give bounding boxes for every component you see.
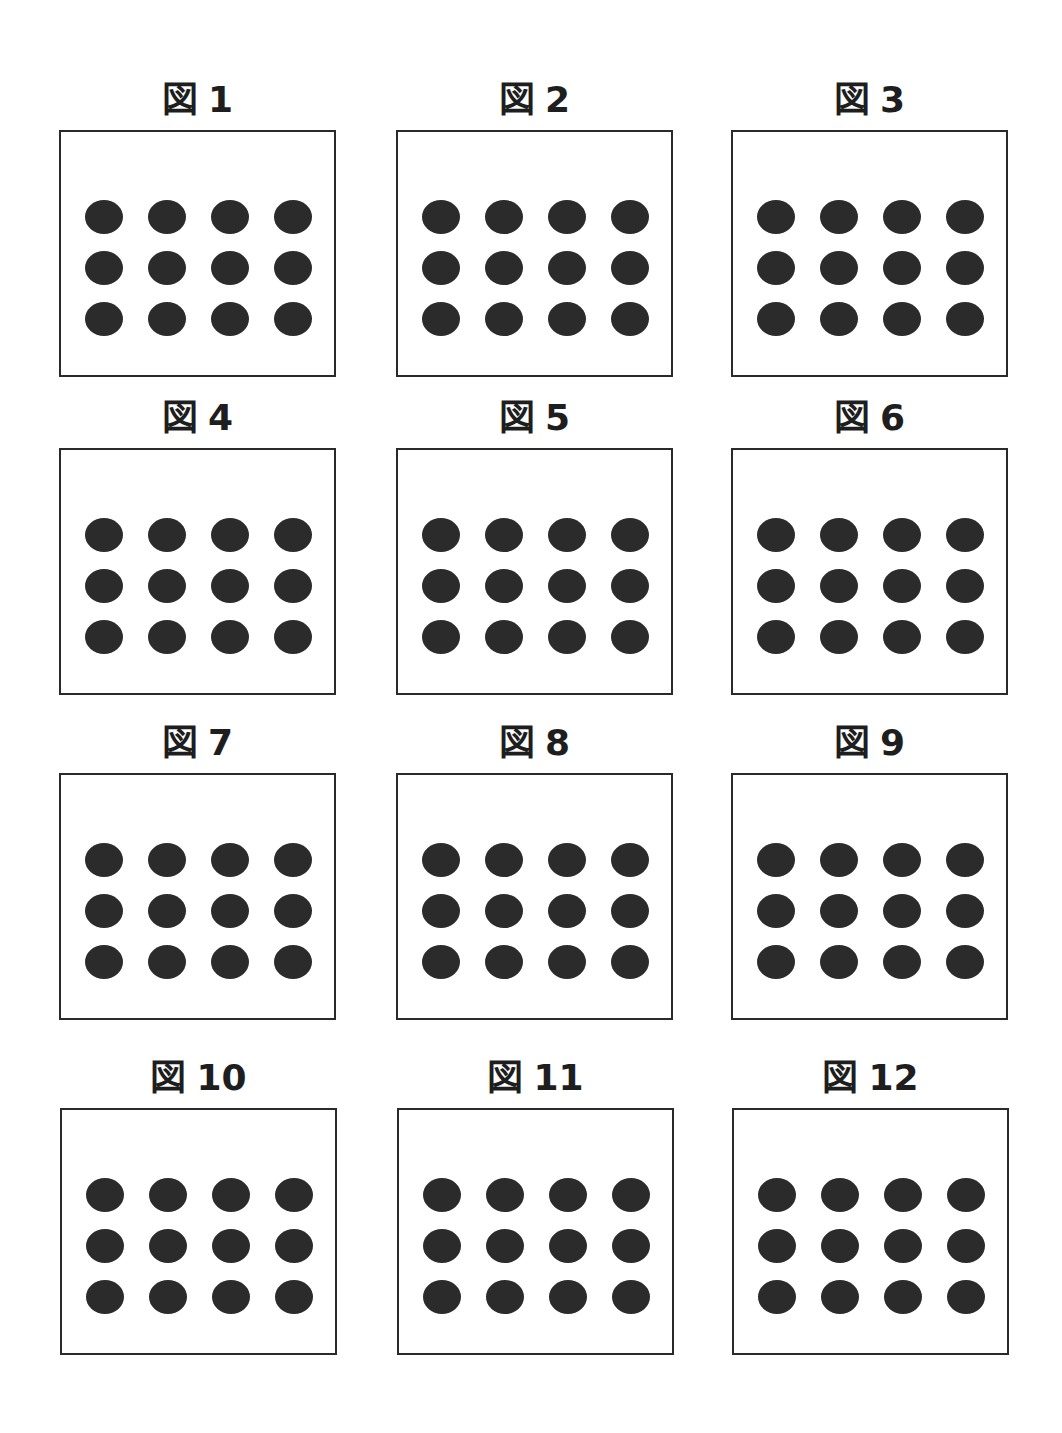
dot: [485, 302, 523, 336]
dot: [548, 251, 586, 285]
figure-label: 図2: [396, 80, 673, 120]
dot-array: [758, 1178, 986, 1316]
dot: [275, 1178, 313, 1212]
dot: [548, 200, 586, 234]
figure-label: 図7: [59, 723, 336, 763]
dot: [211, 569, 249, 603]
dot: [883, 620, 921, 654]
figure-label-prefix: 図: [487, 1057, 523, 1098]
dot: [422, 569, 460, 603]
figure-box: [59, 773, 336, 1020]
dot: [85, 569, 123, 603]
dot: [883, 251, 921, 285]
dot: [422, 894, 460, 928]
dot: [947, 1280, 985, 1314]
dot: [486, 1229, 524, 1263]
dot: [148, 620, 186, 654]
dot: [757, 518, 795, 552]
dot: [883, 569, 921, 603]
figure-label: 図5: [396, 398, 673, 438]
figure-label-number: 8: [545, 722, 570, 763]
dot: [149, 1280, 187, 1314]
dot: [946, 620, 984, 654]
figure-label: 図10: [60, 1058, 337, 1098]
figure-label-prefix: 図: [822, 1057, 858, 1098]
dot: [821, 1280, 859, 1314]
dot: [274, 518, 312, 552]
dot: [85, 518, 123, 552]
figure-box: [59, 130, 336, 377]
dot: [85, 620, 123, 654]
figure-box: [732, 1108, 1009, 1355]
dot: [485, 894, 523, 928]
figure-label-prefix: 図: [834, 722, 870, 763]
figure-label: 図3: [731, 80, 1008, 120]
dot: [757, 302, 795, 336]
dot: [757, 251, 795, 285]
dot: [274, 200, 312, 234]
dot: [611, 251, 649, 285]
dot: [611, 569, 649, 603]
dot: [211, 518, 249, 552]
dot: [757, 569, 795, 603]
dot: [486, 1178, 524, 1212]
dot: [548, 518, 586, 552]
dot: [211, 302, 249, 336]
figure-box: [396, 773, 673, 1020]
figure-label-number: 3: [880, 79, 905, 120]
dot: [757, 894, 795, 928]
dot: [821, 1229, 859, 1263]
dot: [423, 1178, 461, 1212]
dot: [85, 302, 123, 336]
dot: [946, 894, 984, 928]
dot-array: [422, 843, 650, 981]
dot: [946, 843, 984, 877]
dot: [211, 620, 249, 654]
dot: [274, 894, 312, 928]
dot: [148, 945, 186, 979]
dot: [274, 843, 312, 877]
dot: [757, 945, 795, 979]
dot: [149, 1178, 187, 1212]
figure-label: 図1: [59, 80, 336, 120]
figure-label: 図9: [731, 723, 1008, 763]
figure-box: [731, 773, 1008, 1020]
dot: [946, 518, 984, 552]
dot-array: [85, 518, 313, 656]
dot: [820, 843, 858, 877]
dot: [485, 569, 523, 603]
figure-label-number: 1: [208, 79, 233, 120]
dot: [548, 894, 586, 928]
dot: [85, 843, 123, 877]
dot: [883, 200, 921, 234]
dot: [758, 1229, 796, 1263]
dot: [422, 945, 460, 979]
dot: [211, 945, 249, 979]
dot: [611, 200, 649, 234]
dot: [485, 945, 523, 979]
figure-label: 図4: [59, 398, 336, 438]
dot: [612, 1178, 650, 1212]
dot: [423, 1280, 461, 1314]
dot: [86, 1280, 124, 1314]
dot: [549, 1280, 587, 1314]
figure-label-number: 5: [545, 397, 570, 438]
figure-label-number: 10: [196, 1057, 246, 1098]
dot: [820, 894, 858, 928]
dot: [211, 200, 249, 234]
dot: [148, 569, 186, 603]
dot: [883, 518, 921, 552]
dot: [884, 1178, 922, 1212]
dot: [757, 843, 795, 877]
dot: [85, 251, 123, 285]
dot: [758, 1280, 796, 1314]
figure-box: [396, 448, 673, 695]
dot: [883, 894, 921, 928]
dot: [212, 1229, 250, 1263]
figure-label-prefix: 図: [834, 79, 870, 120]
dot: [946, 569, 984, 603]
figure-label: 図12: [732, 1058, 1009, 1098]
dot: [149, 1229, 187, 1263]
figure-label-number: 4: [208, 397, 233, 438]
dot: [148, 843, 186, 877]
